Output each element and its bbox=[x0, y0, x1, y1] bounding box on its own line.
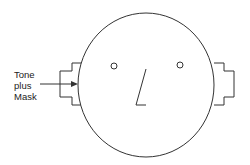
diagram-canvas bbox=[0, 0, 250, 165]
head-diagram: Tone plus Mask bbox=[0, 0, 250, 165]
label-plus: plus bbox=[14, 80, 31, 91]
arrow-head-icon bbox=[71, 81, 78, 87]
head-outline bbox=[78, 13, 214, 157]
right-ear-headphone bbox=[214, 63, 234, 105]
label-mask: Mask bbox=[14, 91, 37, 102]
label-tone: Tone bbox=[14, 69, 35, 80]
